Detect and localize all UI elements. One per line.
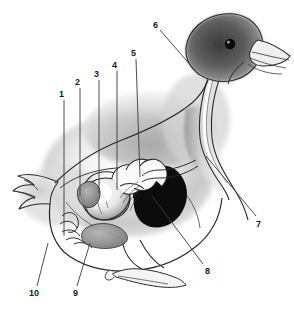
leader-line-7 <box>206 156 256 216</box>
eye <box>225 39 235 49</box>
callout-label-1: 1 <box>59 90 64 99</box>
duck-anatomy-figure: 12345678910 <box>0 0 294 316</box>
leader-line-10 <box>37 243 48 286</box>
callout-label-7: 7 <box>256 220 261 229</box>
callout-label-6: 6 <box>153 21 158 30</box>
leader-line-9 <box>77 243 90 286</box>
callout-label-9: 9 <box>73 289 78 298</box>
callout-label-2: 2 <box>75 78 80 87</box>
callout-label-5: 5 <box>131 49 136 58</box>
callout-label-10: 10 <box>29 289 39 298</box>
duck-illustration <box>0 0 294 316</box>
callout-label-8: 8 <box>205 267 210 276</box>
callout-label-4: 4 <box>112 61 117 70</box>
callout-label-3: 3 <box>94 70 99 79</box>
